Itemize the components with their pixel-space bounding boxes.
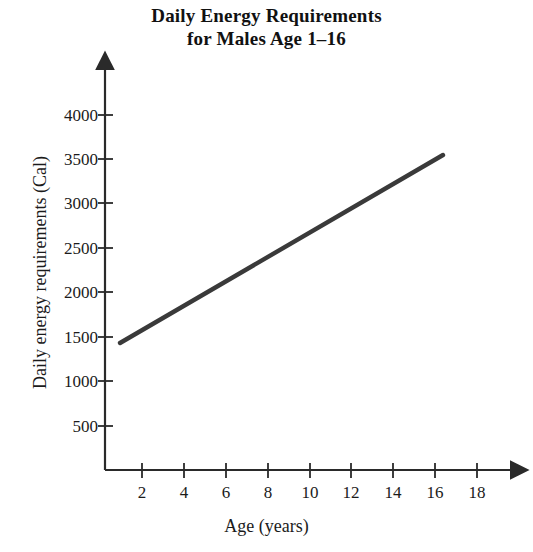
- x-tick-label-8: 8: [251, 484, 285, 501]
- x-tick-label-14: 14: [376, 484, 410, 501]
- chart-figure: Daily Energy Requirements for Males Age …: [0, 0, 533, 552]
- x-tick-label-10: 10: [293, 484, 327, 501]
- x-tick-label-16: 16: [418, 484, 452, 501]
- x-tick-label-18: 18: [460, 484, 494, 501]
- x-axis-title: Age (years): [0, 516, 533, 537]
- data-series-line: [120, 155, 443, 343]
- x-tick-label-4: 4: [167, 484, 201, 501]
- plot-area: [0, 0, 533, 552]
- x-tick-label-6: 6: [209, 484, 243, 501]
- y-axis-title: Daily energy requirements (Cal): [30, 93, 51, 453]
- x-tick-label-2: 2: [125, 484, 159, 501]
- x-tick-label-12: 12: [334, 484, 368, 501]
